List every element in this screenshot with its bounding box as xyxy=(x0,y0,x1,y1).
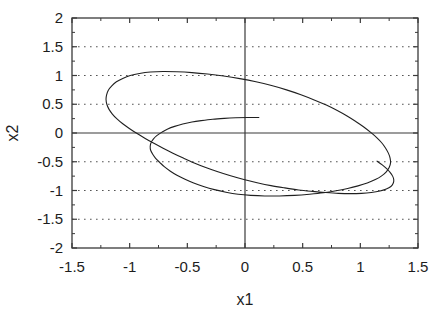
x-tick-label: 0 xyxy=(241,258,249,275)
x-tick-label: -1.5 xyxy=(59,258,85,275)
y-tick-label: -0.5 xyxy=(37,153,63,170)
x-tick-label: -1 xyxy=(123,258,136,275)
y-tick-label: 0.5 xyxy=(42,95,63,112)
chart-figure: -2-1.5-1-0.500.511.52-1.5-1-0.500.511.5 … xyxy=(0,0,442,313)
y-tick-label: 2 xyxy=(55,9,63,26)
x-tick-label: 1 xyxy=(356,258,364,275)
y-tick-label: -1 xyxy=(50,182,63,199)
y-tick-label: 1.5 xyxy=(42,38,63,55)
x-tick-label: -0.5 xyxy=(174,258,200,275)
x-axis-title: x1 xyxy=(237,291,254,308)
y-tick-label: 1 xyxy=(55,67,63,84)
y-tick-label: -2 xyxy=(50,239,63,256)
y-tick-label: 0 xyxy=(55,124,63,141)
phase-portrait-chart: -2-1.5-1-0.500.511.52-1.5-1-0.500.511.5 … xyxy=(0,0,442,313)
x-tick-label: 0.5 xyxy=(292,258,313,275)
x-tick-label: 1.5 xyxy=(408,258,429,275)
y-axis-title: x2 xyxy=(4,124,21,141)
y-tick-label: -1.5 xyxy=(37,210,63,227)
